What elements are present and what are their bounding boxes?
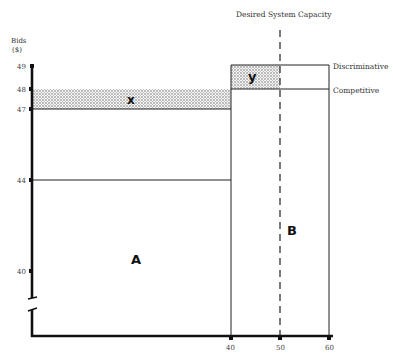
x-tick-label-50: 50 [276,344,285,352]
y-axis-title-line2: ($) [12,46,22,54]
x-tick-label-40: 40 [226,344,235,352]
y-axis-title-line1: Bids [11,37,27,45]
y-tick-label-47: 47 [17,106,26,114]
region-label-a: A [131,252,141,267]
region-label-b: B [287,223,297,238]
y-tick-label-48: 48 [17,86,26,94]
axis-break-mark-top [28,297,37,299]
competitive-label: Competitive [333,86,380,95]
y-tick-label-40: 40 [17,268,26,276]
region-label-y: y [248,69,257,84]
y-tick-label-44: 44 [17,177,26,185]
x-tick-label-60: 60 [325,344,334,352]
region-label-x: x [127,93,135,107]
y-tick-label-49: 49 [17,63,26,71]
discriminative-label: Discriminative [333,62,389,71]
desired-capacity-label: Desired System Capacity [236,10,332,19]
chart-canvas: 49 48 47 44 40 40 50 60 Bids ($) Desired… [0,0,393,364]
